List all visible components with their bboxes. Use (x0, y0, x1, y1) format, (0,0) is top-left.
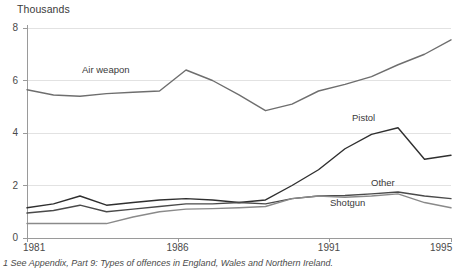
y-tick-label: 0 (4, 233, 18, 243)
series-line (27, 194, 451, 224)
series-label: Other (371, 178, 395, 188)
series-line (27, 128, 451, 208)
series-label: Air weapon (82, 65, 130, 75)
series-label: Pistol (352, 113, 375, 123)
y-tick-label: 8 (4, 23, 18, 33)
x-tick-label: 1995 (430, 243, 452, 253)
y-tick-label: 4 (4, 128, 18, 138)
chart-footnote: 1 See Appendix, Part 9: Types of offence… (3, 258, 333, 268)
chart-plot-area (0, 0, 467, 272)
y-tick-label: 2 (4, 181, 18, 191)
x-tick-label: 1991 (318, 243, 340, 253)
x-tick-label: 1986 (166, 243, 188, 253)
chart-container: Thousands 02468 1981198619911995 Air wea… (0, 0, 467, 272)
series-line (27, 40, 451, 111)
y-tick-label: 6 (4, 76, 18, 86)
series-label: Shotgun (330, 198, 365, 208)
x-tick-label: 1981 (23, 243, 45, 253)
gridlines-group (27, 28, 451, 186)
